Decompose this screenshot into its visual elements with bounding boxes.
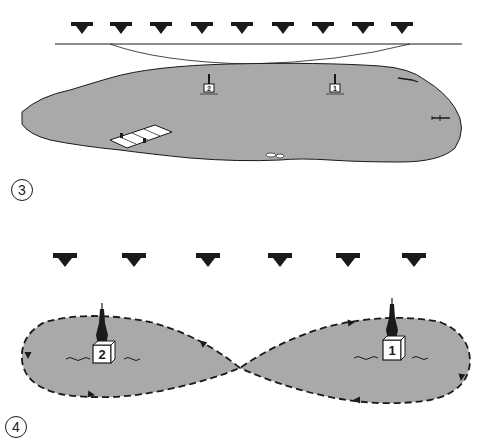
wind-arrow-icon (336, 253, 360, 267)
panel-4: 2 1 (22, 253, 470, 404)
wind-arrow-icon (71, 22, 93, 34)
panel-label-4: 4 (5, 416, 27, 438)
wind-arrow-icon (122, 253, 146, 267)
wind-arrow-icon (110, 22, 132, 34)
wind-arrows-panel-4 (53, 253, 426, 267)
panel-3: 2 1 (22, 22, 462, 162)
rock (266, 153, 276, 157)
pylon-number: 1 (333, 85, 337, 92)
far-shore-line (110, 44, 410, 64)
wind-arrows-panel-3 (71, 22, 413, 34)
diagram-canvas: 2 1 (0, 0, 490, 441)
panel-label-3: 3 (11, 179, 33, 201)
wind-arrow-icon (191, 22, 213, 34)
wind-arrow-icon (391, 22, 413, 34)
wind-arrow-icon (150, 22, 172, 34)
pylon-number: 2 (98, 347, 105, 362)
pylon-number: 1 (388, 343, 395, 358)
lake (22, 63, 462, 162)
wind-arrow-icon (402, 253, 426, 267)
wind-arrow-icon (312, 22, 334, 34)
figure-eight-left-lobe (22, 316, 240, 397)
wind-arrow-icon (268, 253, 292, 267)
pylon-number: 2 (207, 85, 211, 92)
rock (276, 154, 284, 158)
wind-arrow-icon (53, 253, 77, 267)
wind-arrow-icon (231, 22, 253, 34)
wind-arrow-icon (272, 22, 294, 34)
figure-eight-right-lobe (240, 318, 470, 403)
wind-arrow-icon (352, 22, 374, 34)
wind-arrow-icon (196, 253, 220, 267)
